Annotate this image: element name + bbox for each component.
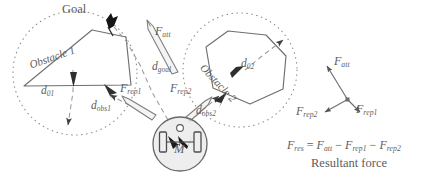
f-att-label: Fatt (155, 25, 171, 38)
eq-t3-sub: rep2 (387, 144, 401, 153)
robot-wheel-left (160, 132, 167, 152)
obstacle1-edge-arrow (104, 84, 117, 100)
robot-label: M (174, 143, 184, 156)
d-01-label: d01 (41, 85, 54, 97)
f-rep2-vector (325, 100, 348, 113)
f-att-vector (327, 66, 348, 100)
eq-t1-sub: att (324, 144, 332, 153)
d-goal-label: dgoal (152, 61, 171, 73)
d-02-label: d02 (241, 58, 254, 70)
d-obs2-label: dobs2 (196, 105, 216, 117)
eq-t1-base: F (317, 138, 324, 152)
f-att-vector-label: Fatt (334, 55, 350, 68)
eq-t2-sub: rep1 (352, 144, 366, 153)
d-goal-sub: goal (158, 65, 171, 74)
figure-canvas: Goal Obstacle 1 Obstacle 2 Fatt dgoal d0… (0, 0, 429, 176)
f-rep2-sub: rep2 (177, 87, 191, 96)
f-rep1-sub: rep1 (127, 87, 141, 96)
resultant-force-equation: Fres = Fatt − Frep1 − Frep2 (287, 139, 401, 152)
d-obs1-label: dobs1 (91, 100, 111, 112)
goal-marker-icon (106, 13, 118, 36)
eq-equals: = (307, 138, 314, 152)
goal-label: Goal (62, 3, 86, 16)
eq-lhs-sub: res (294, 144, 303, 153)
resultant-force-triad (325, 66, 360, 112)
d-02-sub: 02 (247, 62, 255, 71)
f-att-sub: att (162, 30, 170, 39)
f-rep1-hollow-arrow (122, 96, 156, 120)
eq-op1: − (335, 138, 342, 152)
f-rep1-v-sub: rep1 (363, 108, 377, 117)
f-rep2-v-sub: rep2 (303, 110, 317, 119)
d-obs1-sub: obs1 (97, 104, 111, 113)
d-01-sub: 01 (47, 89, 55, 98)
f-rep2-vector-label: Frep2 (296, 105, 318, 118)
robot-wheel-right (194, 132, 201, 152)
f-rep2-label: Frep2 (170, 82, 192, 95)
eq-op2: − (370, 138, 377, 152)
eq-t3-base: F (379, 138, 386, 152)
d-obs2-sub: obs2 (202, 109, 216, 118)
resultant-force-caption: Resultant force (311, 157, 387, 170)
robot-sensor-icon (177, 125, 184, 132)
f-rep1-vector-label: Frep1 (356, 103, 378, 116)
f-att-v-sub: att (341, 60, 349, 69)
f-rep1-label: Frep1 (120, 82, 142, 95)
